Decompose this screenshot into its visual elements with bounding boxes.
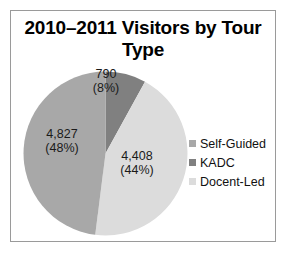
legend-swatch-kadc xyxy=(189,159,196,166)
legend-swatch-docent-led xyxy=(189,178,196,185)
pie-label-self-guided-value: 4,827 xyxy=(46,127,77,141)
legend-label-kadc: KADC xyxy=(200,156,235,170)
chart-title: 2010–2011 Visitors by Tour Type xyxy=(11,17,275,60)
pie-label-self-guided-percent: (48%) xyxy=(29,141,95,155)
pie-label-kadc-value: 790 xyxy=(96,67,117,81)
pie-label-kadc-percent: (8%) xyxy=(75,81,137,95)
chart-container: 2010–2011 Visitors by Tour Type 790 (8%)… xyxy=(10,10,276,242)
pie-label-docent-led: 4,408 (44%) xyxy=(101,149,173,177)
legend-label-docent-led: Docent-Led xyxy=(200,175,265,189)
chart-legend: Self-Guided KADC Docent-Led xyxy=(189,135,275,192)
pie-label-docent-led-value: 4,408 xyxy=(121,149,152,163)
legend-label-self-guided: Self-Guided xyxy=(200,137,266,151)
legend-item-docent-led[interactable]: Docent-Led xyxy=(189,173,275,190)
legend-item-self-guided[interactable]: Self-Guided xyxy=(189,135,275,152)
legend-swatch-self-guided xyxy=(189,140,196,147)
pie-label-docent-led-percent: (44%) xyxy=(101,163,173,177)
pie-label-kadc: 790 (8%) xyxy=(75,67,137,95)
legend-item-kadc[interactable]: KADC xyxy=(189,154,275,171)
plot-area: 790 (8%) 4,827 (48%) 4,408 (44%) Self-Gu… xyxy=(11,69,275,243)
pie-label-self-guided: 4,827 (48%) xyxy=(29,127,95,155)
pie-chart: 790 (8%) 4,827 (48%) 4,408 (44%) xyxy=(23,71,188,236)
